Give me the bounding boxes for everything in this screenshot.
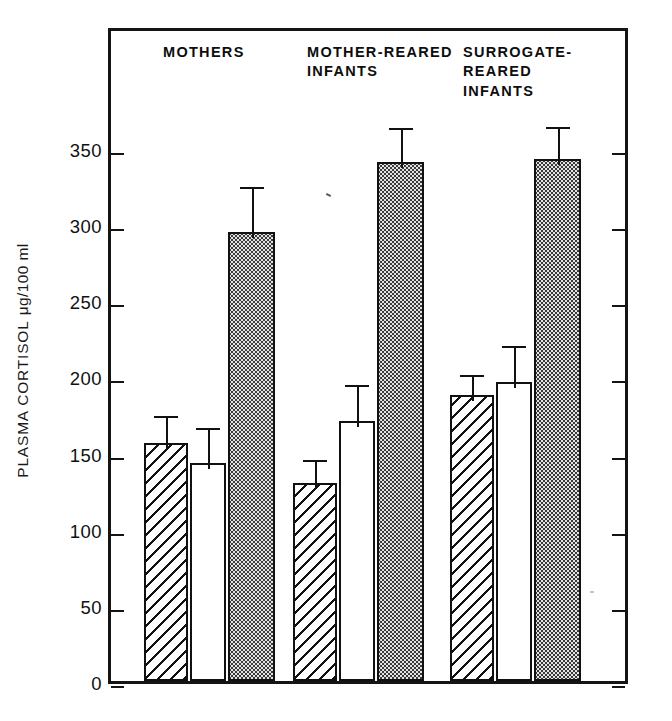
y-axis-tick-label: 50 [24,597,102,619]
y-axis-tick-left [111,610,124,612]
scan-speck [326,193,331,197]
figure-bar-chart: PLASMA CORTISOL μg/100 ml 05010015020025… [0,0,672,721]
error-bar-stem [357,385,359,426]
y-axis-tick-left [111,686,124,688]
error-bar-stem [472,375,474,401]
bar [190,463,226,681]
error-bar-stem [315,460,317,489]
error-bar-cap [389,128,413,130]
group-title-1: MOTHER-REARED INFANTS [307,43,453,82]
group-title-0: MOTHERS [163,43,245,62]
y-axis-tick-label: 350 [24,140,102,162]
error-bar-cap [502,346,526,348]
error-bar-cap [196,428,220,430]
y-axis-tick-labels: 050100150200250300350 [16,28,102,684]
plot-area: MOTHERSMOTHER-REARED INFANTSSURROGATE- R… [108,28,628,684]
error-bar-cap [460,375,484,377]
error-bar-cap [303,460,327,462]
y-axis-tick-label: 150 [24,445,102,467]
bar [377,162,424,681]
error-bar-stem [166,416,168,450]
y-axis-tick-left [111,229,124,231]
error-bar-stem [558,127,560,165]
error-bar-stem [514,346,516,389]
bar [450,395,494,681]
y-axis-tick-right [612,458,625,460]
y-axis-tick-right [612,305,625,307]
error-bar-cap [154,416,178,418]
error-bar-cap [546,127,570,129]
y-axis-tick-right [612,381,625,383]
y-axis-tick-right [612,610,625,612]
bar [144,443,188,681]
y-axis-tick-right [612,229,625,231]
y-axis-tick-left [111,534,124,536]
error-bar-stem [208,428,210,469]
bar [293,483,337,681]
y-axis-tick-right [612,153,625,155]
bar [228,232,275,681]
error-bar-cap [240,187,264,189]
y-axis-tick-left [111,305,124,307]
bar [534,159,581,681]
y-axis-tick-left [111,458,124,460]
y-axis-tick-label: 200 [24,368,102,390]
bar [496,382,532,681]
y-axis-tick-left [111,153,124,155]
bar [339,421,375,681]
y-axis-tick-label: 100 [24,521,102,543]
y-axis-tick-label: 0 [24,673,102,695]
scan-speck [590,591,594,593]
y-axis-tick-label: 300 [24,216,102,238]
error-bar-stem [401,128,403,168]
y-axis-tick-right [612,686,625,688]
error-bar-cap [345,385,369,387]
error-bar-stem [252,187,254,237]
y-axis-tick-right [612,534,625,536]
y-axis-tick-label: 250 [24,292,102,314]
y-axis-tick-left [111,381,124,383]
group-title-2: SURROGATE- REARED INFANTS [463,43,572,101]
